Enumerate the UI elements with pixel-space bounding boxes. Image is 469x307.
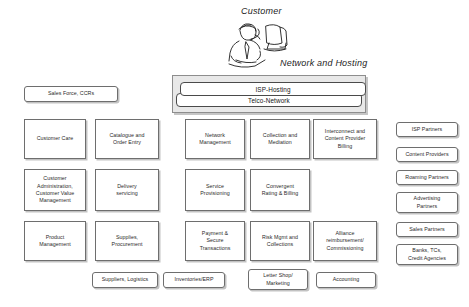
box-customer-care[interactable]: Customer Care xyxy=(24,119,86,159)
box-inventories-erp[interactable]: Inventories/ERP xyxy=(163,272,225,288)
box-network-management[interactable]: Network Management xyxy=(185,119,245,159)
box-alliance-reimbursement[interactable]: Alliance reimbursement/ Commissioning xyxy=(313,221,377,261)
network-and-hosting-label: Network and Hosting xyxy=(280,58,367,68)
box-risk-mgmt-collections[interactable]: Risk Mgmt and Collections xyxy=(250,221,310,261)
box-letter-shop-marketing[interactable]: Letter Shop/ Marketing xyxy=(248,269,308,290)
box-convergent-rating-billing[interactable]: Convergent Rating & Billing xyxy=(250,169,310,211)
box-content-providers[interactable]: Content Providers xyxy=(396,147,458,162)
box-accounting[interactable]: Accounting xyxy=(316,272,376,288)
box-sales-force-ccrs[interactable]: Sales Force, CCRs xyxy=(24,86,118,102)
customer-label: Customer xyxy=(241,6,282,16)
box-customer-administration[interactable]: Customer Administration, Customer Value … xyxy=(24,169,86,211)
box-roaming-partners[interactable]: Roaming Partners xyxy=(396,170,458,185)
box-collection-mediation[interactable]: Collection and Mediation xyxy=(250,119,310,159)
box-product-management[interactable]: Product Management xyxy=(24,221,86,261)
box-delivery-servicing[interactable]: Delivery servicing xyxy=(95,169,159,211)
isp-hosting-box[interactable]: ISP-Hosting xyxy=(180,82,366,96)
box-supplies-procurement[interactable]: Supplies, Procurement xyxy=(95,221,159,261)
isp-hosting-label: ISP-Hosting xyxy=(255,86,290,93)
box-suppliers-logistics[interactable]: Suppliers, Logistics xyxy=(92,272,158,288)
box-payment-secure-transactions[interactable]: Payment & Secure Transactions xyxy=(185,221,245,261)
box-banks-tcs-credit-agencies[interactable]: Banks, TCs, Credit Agencies xyxy=(396,244,458,265)
box-catalogue-order-entry[interactable]: Catalogue and Order Entry xyxy=(95,119,159,159)
architecture-diagram: Customer xyxy=(0,0,469,307)
box-service-provisioning[interactable]: Service Provisioning xyxy=(185,169,245,211)
telco-network-label: Telco-Network xyxy=(248,97,290,104)
box-sales-partners[interactable]: Sales Partners xyxy=(396,222,458,237)
box-isp-partners[interactable]: ISP Partners xyxy=(396,122,458,137)
box-interconnect-content-provider-billing[interactable]: Interconnect and Content Provider Billin… xyxy=(313,119,377,159)
box-advertising-partners[interactable]: Advertising Partners xyxy=(396,192,458,213)
